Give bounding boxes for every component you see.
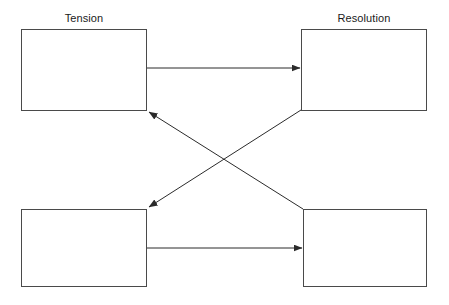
node-label-top-left: Tension bbox=[21, 12, 147, 25]
edge-diagonal-down-left bbox=[149, 110, 301, 207]
diagram-canvas: Tension Resolution bbox=[0, 0, 449, 305]
edge-diagonal-up-left bbox=[149, 112, 303, 209]
node-box-bottom-right[interactable] bbox=[303, 209, 427, 287]
node-box-bottom-left[interactable] bbox=[21, 209, 147, 287]
node-label-top-right: Resolution bbox=[301, 12, 427, 25]
node-box-top-right[interactable] bbox=[301, 29, 427, 111]
node-box-top-left[interactable] bbox=[21, 29, 147, 111]
